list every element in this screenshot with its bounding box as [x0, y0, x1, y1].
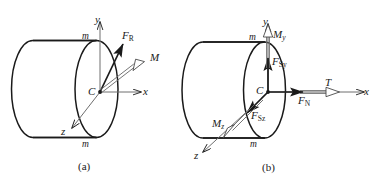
vector-resultant-moment — [99, 59, 144, 93]
label-normal-force-sub: N — [305, 99, 310, 108]
centroid-dot-a — [98, 90, 102, 94]
axis-z-a — [72, 92, 100, 128]
section-mark-bottom-a: m — [82, 140, 89, 150]
label-bending-moment-y-sub: y — [282, 33, 285, 42]
label-shear-force-z: FSz — [251, 110, 265, 123]
label-resultant-force: FR — [122, 30, 134, 43]
label-shear-force-y-main: F — [272, 55, 279, 67]
cut-section-ellipse-a — [75, 41, 118, 138]
label-bending-moment-z-sub: z — [221, 122, 224, 131]
label-bending-moment-z: Mz — [212, 118, 224, 131]
axis-label-x-b: x — [364, 86, 369, 97]
section-mark-bottom-b: m — [250, 140, 257, 150]
centroid-dot-b — [266, 90, 270, 94]
label-normal-force-main: F — [298, 94, 305, 106]
label-bending-moment-z-main: M — [212, 117, 221, 129]
centroid-label-a: C — [88, 86, 95, 97]
axis-label-y-b: y — [263, 16, 268, 27]
label-torque: T — [325, 77, 331, 88]
figure-canvas: y x z C m m FR M (a) y x z C m m FN FSy … — [0, 0, 379, 187]
label-shear-force-y-sub: Sy — [279, 60, 287, 69]
axis-label-y-a: y — [95, 14, 100, 25]
axis-label-x-a: x — [143, 86, 148, 97]
label-bending-moment-y: My — [273, 29, 286, 42]
axis-label-z-a: z — [61, 126, 65, 137]
label-resultant-force-sub: R — [129, 34, 134, 43]
label-resultant-moment: M — [150, 52, 159, 63]
label-shear-force-z-main: F — [251, 109, 258, 121]
label-shear-force-z-sub: Sz — [258, 114, 266, 123]
label-bending-moment-y-main: M — [273, 28, 282, 40]
panel-caption-a: (a) — [78, 161, 90, 172]
section-mark-top-a: m — [82, 32, 89, 42]
label-shear-force-y: FSy — [272, 56, 287, 69]
diagram-vector-layer — [0, 0, 379, 187]
label-normal-force: FN — [298, 95, 310, 108]
axis-label-z-b: z — [194, 150, 198, 161]
panel-a-vectors — [98, 44, 144, 94]
section-mark-top-b: m — [249, 33, 256, 43]
panel-caption-b: (b) — [262, 162, 275, 173]
centroid-label-b: C — [256, 85, 263, 96]
label-resultant-force-main: F — [122, 29, 129, 41]
